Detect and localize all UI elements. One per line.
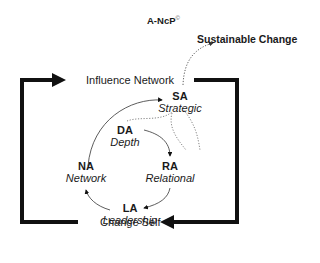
- diagram-title: A-NcP©: [147, 12, 180, 27]
- node-name: Depth: [100, 136, 150, 148]
- node-leadership: LA Leadership: [100, 202, 160, 226]
- node-name: Leadership: [100, 214, 160, 226]
- node-abbr: NA: [56, 160, 116, 172]
- inner-cycle-arrows: [86, 100, 170, 210]
- outer-loop-left: [22, 73, 78, 222]
- title-text: A-NcP: [147, 15, 176, 26]
- node-name: Relational: [140, 172, 200, 184]
- node-abbr: DA: [100, 124, 150, 136]
- node-name: Strategic: [150, 102, 210, 114]
- influence-network-label: Influence Network: [86, 74, 174, 87]
- node-abbr: LA: [100, 202, 160, 214]
- node-abbr: SA: [150, 90, 210, 102]
- node-network: NA Network: [56, 160, 116, 184]
- node-abbr: RA: [140, 160, 200, 172]
- node-name: Network: [56, 172, 116, 184]
- node-strategic: SA Strategic: [150, 90, 210, 114]
- node-depth: DA Depth: [100, 124, 150, 148]
- copyright-mark: ©: [176, 15, 180, 21]
- node-relational: RA Relational: [140, 160, 200, 184]
- outcome-label: Sustainable Change: [197, 33, 297, 46]
